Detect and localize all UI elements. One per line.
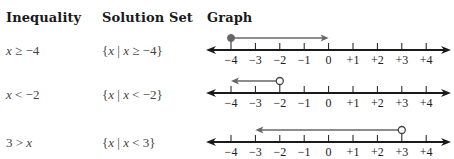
closed-dot-icon (228, 35, 235, 42)
tick-label: +3 (395, 145, 408, 159)
open-dot-icon (276, 78, 283, 85)
open-dot-icon (398, 127, 405, 134)
tick-label: −3 (249, 53, 262, 67)
tick-label: +2 (371, 96, 384, 110)
tick-label: +4 (420, 96, 433, 110)
tick-label: −4 (225, 96, 238, 110)
tick-label: +3 (395, 53, 408, 67)
tick-label: +3 (395, 96, 408, 110)
tick-label: −1 (298, 145, 311, 159)
tick-label: −3 (249, 145, 262, 159)
tick-label: −4 (225, 53, 238, 67)
tick-label: 0 (326, 145, 332, 159)
tick-label: −1 (298, 96, 311, 110)
tick-label: −2 (273, 53, 286, 67)
tick-label: −3 (249, 96, 262, 110)
tick-label: −2 (273, 96, 286, 110)
tick-label: 0 (326, 53, 332, 67)
tick-label: 0 (326, 96, 332, 110)
tick-label: +2 (371, 53, 384, 67)
tick-label: +4 (420, 145, 433, 159)
tick-label: +1 (347, 145, 360, 159)
tick-label: +1 (347, 53, 360, 67)
tick-label: +1 (347, 96, 360, 110)
number-line-graphs: −4−3−2−10+1+2+3+4−4−3−2−10+1+2+3+4−4−3−2… (0, 0, 454, 159)
tick-label: −2 (273, 145, 286, 159)
tick-label: +4 (420, 53, 433, 67)
tick-label: +2 (371, 145, 384, 159)
tick-label: −4 (225, 145, 238, 159)
tick-label: −1 (298, 53, 311, 67)
